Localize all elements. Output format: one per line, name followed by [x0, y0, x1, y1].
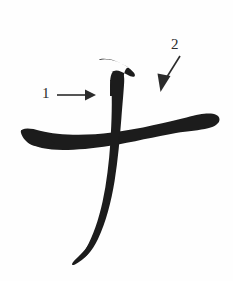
- annotation-1-arrow: [57, 90, 96, 101]
- stroke-order-figure: 1 2: [0, 0, 233, 281]
- annotation-2-label: 2: [171, 37, 179, 52]
- annotation-1-label: 1: [42, 86, 50, 101]
- vertical-brush-stroke: [72, 59, 135, 265]
- character-canvas: [0, 0, 233, 281]
- annotation-2-arrow: [158, 56, 181, 92]
